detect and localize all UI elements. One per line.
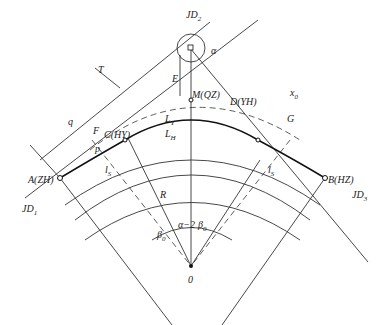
- label-center: 0: [188, 274, 193, 285]
- label-alpha: α: [211, 45, 217, 56]
- point-center: [189, 264, 193, 268]
- label-beta0-right: β0: [197, 219, 207, 233]
- label-ly: LY: [164, 113, 176, 127]
- label-beta0-left: β0: [156, 229, 166, 243]
- jd2-marker: [188, 45, 193, 50]
- point-d: [256, 138, 260, 142]
- label-b: B(HZ): [328, 174, 354, 186]
- label-p: p: [94, 143, 100, 154]
- tangent-line-right: [190, 48, 368, 262]
- radial-line-A: [60, 178, 172, 325]
- point-a: [58, 176, 63, 181]
- label-g: G: [287, 113, 294, 124]
- radius-line-C: [128, 138, 191, 266]
- label-E: E: [171, 73, 178, 84]
- label-R: R: [159, 189, 166, 200]
- label-center-angle: α−2: [178, 219, 195, 230]
- label-ls-right: lS: [268, 164, 275, 178]
- curve-diagram: JD2 α T E M(QZ) D(YH) C(HY) F G q p x0 A…: [0, 0, 389, 325]
- label-ls-left: lS: [105, 164, 112, 178]
- radial-line-B: [222, 178, 325, 325]
- point-b: [323, 176, 328, 181]
- label-T: T: [98, 64, 105, 75]
- label-c: C(HY): [104, 129, 131, 141]
- lh-dim-arc: [75, 175, 310, 220]
- label-f: F: [92, 125, 100, 136]
- label-jd1: JD1: [22, 203, 37, 217]
- label-d: D(YH): [229, 96, 257, 108]
- label-m: M(QZ): [191, 89, 220, 101]
- label-lh: LH: [164, 128, 177, 142]
- label-x0: x0: [289, 87, 298, 101]
- label-q: q: [68, 116, 73, 127]
- label-jd3: JD3: [352, 189, 368, 203]
- ly-dim-arc: [65, 160, 320, 205]
- diagram-canvas: JD2 α T E M(QZ) D(YH) C(HY) F G q p x0 A…: [0, 0, 389, 325]
- label-a: A(ZH): [27, 174, 54, 186]
- label-jd2: JD2: [186, 9, 202, 23]
